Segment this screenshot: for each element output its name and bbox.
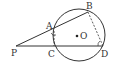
label-p: P xyxy=(11,48,17,58)
label-o: O xyxy=(80,31,87,41)
label-c: C xyxy=(48,49,55,59)
segment-bd-dashed xyxy=(88,12,103,46)
angle-mark-d xyxy=(98,41,100,46)
center-dot-o xyxy=(76,35,79,38)
diagram-canvas: P A B C D O xyxy=(0,0,118,68)
label-d: D xyxy=(101,49,108,59)
label-a: A xyxy=(45,21,53,31)
label-b: B xyxy=(86,1,93,11)
geometry-figure: P A B C D O xyxy=(0,0,118,68)
